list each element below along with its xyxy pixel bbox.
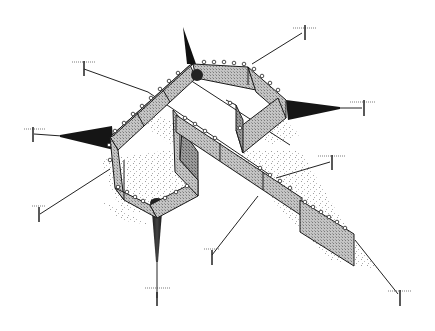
anchor-ene-icon [318,155,346,170]
tether-nw [84,69,148,92]
anchor-n-icon [293,25,317,40]
tether-se [355,240,398,294]
tether-w [34,134,62,136]
tether-sw [40,169,110,214]
float-marker-icon [191,69,203,81]
cone-top-icon [183,27,196,64]
anchor-sw-icon [32,206,46,222]
cone-right-icon [286,100,340,120]
anchor-s-icon [204,249,220,265]
anchor-se-icon [388,290,412,306]
diagram-canvas [0,0,435,331]
tether-s [212,196,258,255]
barrier-diagram [0,0,435,331]
tether-n [252,33,302,64]
cone-left-icon [60,126,114,150]
anchor-nw-icon [72,61,96,76]
